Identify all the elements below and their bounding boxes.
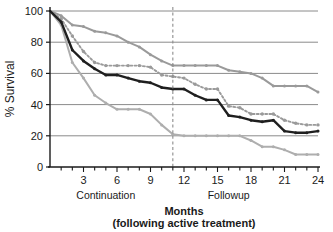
phase-label: Continuation (76, 189, 135, 201)
series-marker (216, 98, 219, 101)
y-axis-tick-label: 40 (31, 99, 43, 111)
y-axis-tick-label: 20 (31, 130, 43, 142)
series-marker (294, 153, 297, 156)
phase-label: Followup (208, 189, 250, 201)
series-marker (82, 59, 85, 62)
series-marker (138, 108, 141, 111)
series-marker (272, 84, 275, 87)
series-marker (93, 61, 96, 64)
x-axis-tick-label: 12 (178, 174, 190, 186)
series-marker (127, 108, 130, 111)
series-marker (283, 130, 286, 133)
series-marker (183, 134, 186, 137)
series-marker (60, 14, 63, 17)
series-marker (260, 112, 263, 115)
series-marker (317, 91, 320, 94)
x-axis-tick-label: 6 (114, 174, 120, 186)
series-marker (216, 64, 219, 67)
series-marker (160, 73, 163, 76)
series-marker (182, 76, 185, 79)
series-line (50, 11, 318, 155)
series-marker (249, 112, 252, 115)
chart-canvas: 0204060801003691215182124ContinuationFol… (0, 0, 333, 232)
series-marker (238, 134, 241, 137)
series-marker (272, 112, 275, 115)
series-marker (126, 64, 129, 67)
series-marker (216, 134, 219, 137)
series-marker (160, 123, 163, 126)
series-marker (183, 64, 186, 67)
series-marker (104, 64, 107, 67)
series-marker (71, 24, 74, 27)
series-marker (93, 67, 96, 70)
series-marker (272, 119, 275, 122)
series-marker (283, 148, 286, 151)
series-marker (71, 61, 74, 64)
series-marker (250, 139, 253, 142)
series-marker (194, 64, 197, 67)
series-marker (283, 84, 286, 87)
series-line (50, 11, 318, 92)
series-marker (116, 73, 119, 76)
series-marker (82, 50, 85, 53)
series-marker (160, 59, 163, 62)
x-axis-tick-label: 3 (80, 174, 86, 186)
series-marker (316, 123, 319, 126)
series-marker (116, 108, 119, 111)
x-axis-tick-label: 9 (147, 174, 153, 186)
series-marker (272, 145, 275, 148)
series-marker (93, 94, 96, 97)
series-marker (71, 49, 74, 52)
series-marker (104, 102, 107, 105)
series-marker (261, 77, 264, 80)
series-marker (104, 31, 107, 34)
series-marker (317, 130, 320, 133)
series-marker (205, 87, 208, 90)
series-marker (115, 64, 118, 67)
series-marker (238, 106, 241, 109)
series-marker (238, 70, 241, 73)
series-marker (183, 88, 186, 91)
x-axis-tick-label: 24 (312, 174, 324, 186)
chart-title: Months (164, 205, 203, 217)
series-marker (82, 25, 85, 28)
series-marker (305, 84, 308, 87)
x-axis-tick-label: 21 (278, 174, 290, 186)
series-marker (250, 72, 253, 75)
series-marker (305, 131, 308, 134)
series-marker (60, 20, 63, 23)
series-marker (227, 104, 230, 107)
series-marker (194, 134, 197, 137)
series-marker (71, 34, 74, 37)
series-marker (138, 64, 141, 67)
series-marker (227, 134, 230, 137)
series-marker (149, 53, 152, 56)
series-marker (261, 145, 264, 148)
series-marker (205, 98, 208, 101)
series-marker (149, 112, 152, 115)
series-marker (283, 119, 286, 122)
series-marker (138, 80, 141, 83)
x-axis-tick-label: 18 (245, 174, 257, 186)
series-marker (305, 123, 308, 126)
series-marker (93, 30, 96, 33)
y-axis-tick-label: 80 (31, 36, 43, 48)
series-marker (116, 34, 119, 37)
series-marker (193, 83, 196, 86)
series-marker (149, 81, 152, 84)
series-marker (149, 65, 152, 68)
series-marker (261, 120, 264, 123)
series-marker (205, 64, 208, 67)
x-axis-tick-label: 15 (211, 174, 223, 186)
series-marker (127, 41, 130, 44)
series-marker (294, 131, 297, 134)
series-marker (205, 134, 208, 137)
series-marker (194, 94, 197, 97)
y-axis-tick-label: 0 (37, 161, 43, 173)
series-line (50, 11, 318, 125)
series-marker (227, 114, 230, 117)
series-marker (305, 153, 308, 156)
series-marker (294, 122, 297, 125)
series-marker (227, 69, 230, 72)
series-marker (127, 77, 130, 80)
